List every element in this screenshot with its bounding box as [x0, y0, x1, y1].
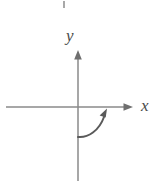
x-axis-label: x: [141, 97, 149, 114]
y-axis-arrowhead-icon: [74, 50, 82, 60]
axes-diagram-svg: [0, 0, 160, 185]
rotation-arc-arrow: [78, 117, 104, 138]
figure-container: y x: [0, 0, 160, 185]
y-axis-label: y: [66, 27, 74, 44]
x-axis-arrowhead-icon: [124, 103, 134, 111]
rotation-arc-arrowhead-icon: [100, 109, 107, 118]
